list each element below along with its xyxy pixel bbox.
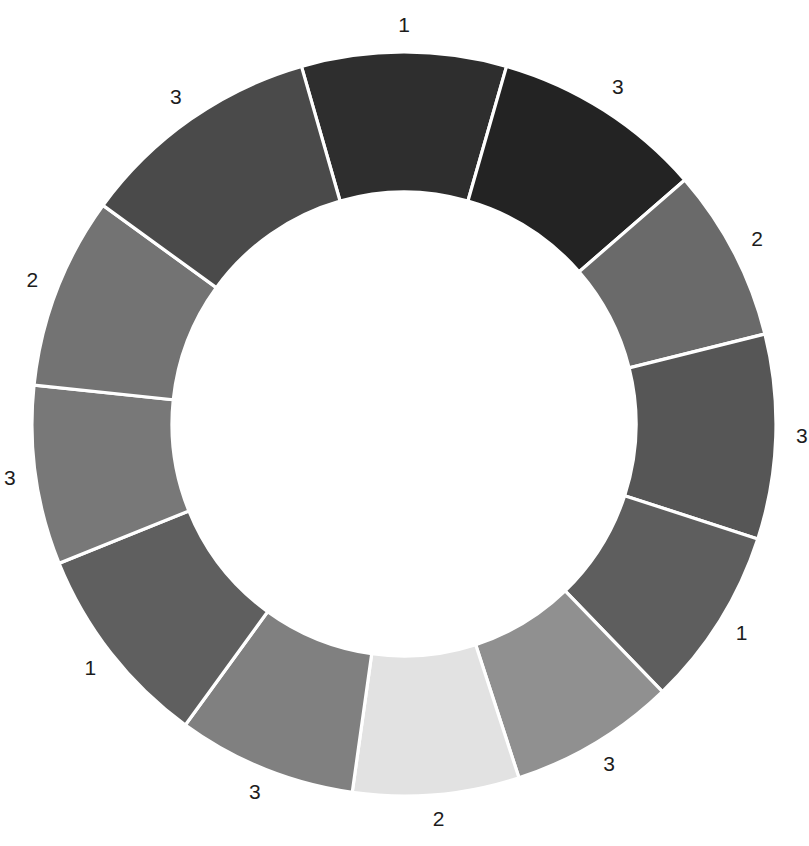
donut-segment-label: 3 — [796, 424, 808, 447]
donut-segments-group — [32, 52, 776, 796]
donut-segment-label: 1 — [736, 621, 748, 644]
donut-segment-label: 2 — [27, 268, 39, 291]
donut-segment-label: 3 — [612, 75, 624, 98]
donut-segment-label: 1 — [398, 13, 410, 36]
donut-chart: 132313231323 — [0, 0, 809, 846]
donut-segment-label: 3 — [603, 752, 615, 775]
donut-segment-label: 3 — [4, 466, 16, 489]
donut-chart-svg: 132313231323 — [0, 0, 809, 846]
donut-segment-label: 3 — [249, 780, 261, 803]
donut-segment-label: 1 — [85, 656, 97, 679]
donut-segment-label: 3 — [170, 85, 182, 108]
donut-segment-label: 2 — [433, 807, 445, 830]
donut-segment-label: 2 — [751, 227, 763, 250]
